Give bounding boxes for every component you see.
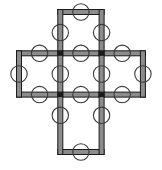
lattice-edge-horizontal bbox=[58, 10, 104, 15]
lattice-edge-horizontal bbox=[17, 51, 63, 56]
lattice-junction bbox=[58, 92, 63, 97]
lattice-junction bbox=[99, 51, 104, 56]
lattice-edge-vertical bbox=[99, 10, 104, 56]
lattice-edge-vertical bbox=[58, 10, 63, 56]
lattice-edge-vertical bbox=[140, 51, 145, 97]
lattice-junction bbox=[58, 51, 63, 56]
lattice-edge-horizontal bbox=[58, 92, 104, 97]
lattice-edge-horizontal bbox=[99, 92, 145, 97]
lattice-figure bbox=[0, 0, 162, 170]
figure-background bbox=[0, 0, 162, 170]
lattice-edge-horizontal bbox=[58, 51, 104, 56]
lattice-svg-canvas bbox=[0, 0, 162, 170]
lattice-edge-horizontal bbox=[99, 51, 145, 56]
lattice-edge-vertical bbox=[17, 51, 22, 97]
lattice-edge-vertical bbox=[58, 51, 63, 97]
lattice-edge-horizontal bbox=[58, 150, 104, 155]
lattice-edge-vertical bbox=[99, 51, 104, 97]
lattice-junction bbox=[99, 92, 104, 97]
lattice-edge-horizontal bbox=[17, 92, 63, 97]
